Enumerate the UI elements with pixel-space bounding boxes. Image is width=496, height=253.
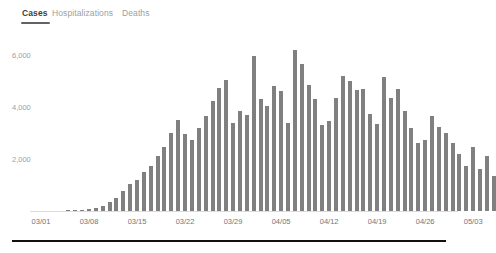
bar[interactable] bbox=[307, 85, 311, 211]
bar[interactable] bbox=[485, 156, 489, 211]
bar[interactable] bbox=[492, 176, 496, 211]
x-axis-line bbox=[30, 211, 458, 212]
bar[interactable] bbox=[211, 101, 215, 212]
bar[interactable] bbox=[320, 125, 324, 211]
x-axis-tick-label: 03/01 bbox=[32, 217, 51, 226]
metric-tab-bar: Cases Hospitalizations Deaths bbox=[0, 0, 461, 30]
bar[interactable] bbox=[348, 81, 352, 211]
x-axis-tick-label: 03/15 bbox=[128, 217, 147, 226]
bar[interactable] bbox=[108, 202, 112, 211]
x-axis-tick-label: 03/22 bbox=[176, 217, 195, 226]
bar[interactable] bbox=[259, 99, 263, 211]
bar[interactable] bbox=[149, 166, 153, 212]
bar[interactable] bbox=[272, 86, 276, 211]
bar[interactable] bbox=[471, 147, 475, 211]
bar-chart: 2,0004,0006,000 03/0103/0803/1503/2203/2… bbox=[0, 30, 461, 228]
bar[interactable] bbox=[464, 166, 468, 212]
bar[interactable] bbox=[204, 116, 208, 211]
bar[interactable] bbox=[327, 121, 331, 211]
bar[interactable] bbox=[252, 56, 256, 211]
bar[interactable] bbox=[162, 147, 166, 211]
tab-hospitalizations[interactable]: Hospitalizations bbox=[52, 8, 113, 18]
bar[interactable] bbox=[313, 99, 317, 211]
x-axis-tick-label: 03/29 bbox=[224, 217, 243, 226]
bar[interactable] bbox=[375, 124, 379, 211]
bar[interactable] bbox=[156, 156, 160, 211]
bar[interactable] bbox=[238, 111, 242, 211]
bar[interactable] bbox=[286, 123, 290, 211]
bar[interactable] bbox=[279, 91, 283, 211]
y-axis-tick-label: 2,000 bbox=[12, 155, 31, 164]
bar[interactable] bbox=[142, 172, 146, 211]
bar[interactable] bbox=[183, 134, 187, 211]
footer-divider bbox=[12, 240, 446, 242]
bar[interactable] bbox=[444, 133, 448, 211]
bar[interactable] bbox=[135, 180, 139, 211]
bar[interactable] bbox=[245, 115, 249, 211]
bar[interactable] bbox=[368, 114, 372, 212]
bar[interactable] bbox=[197, 128, 201, 211]
bar[interactable] bbox=[389, 98, 393, 211]
bar[interactable] bbox=[176, 120, 180, 211]
bar[interactable] bbox=[231, 123, 235, 211]
bar[interactable] bbox=[224, 80, 228, 211]
bar[interactable] bbox=[396, 89, 400, 211]
bar[interactable] bbox=[457, 154, 461, 211]
bar[interactable] bbox=[293, 50, 297, 211]
bar[interactable] bbox=[416, 143, 420, 211]
bar[interactable] bbox=[128, 184, 132, 211]
y-axis-tick-label: 4,000 bbox=[12, 103, 31, 112]
bar[interactable] bbox=[217, 88, 221, 212]
bar[interactable] bbox=[341, 76, 345, 211]
bar[interactable] bbox=[169, 133, 173, 211]
bar[interactable] bbox=[478, 169, 482, 211]
y-axis-tick-label: 6,000 bbox=[12, 51, 31, 60]
bar[interactable] bbox=[190, 140, 194, 212]
plot-area bbox=[30, 30, 458, 211]
bar[interactable] bbox=[114, 198, 118, 211]
x-axis-tick-label: 04/05 bbox=[272, 217, 291, 226]
tab-cases[interactable]: Cases bbox=[22, 8, 48, 18]
x-axis-tick-label: 04/26 bbox=[416, 217, 435, 226]
x-axis-tick-label: 04/12 bbox=[320, 217, 339, 226]
bar[interactable] bbox=[355, 90, 359, 211]
bar[interactable] bbox=[121, 191, 125, 211]
bar[interactable] bbox=[403, 111, 407, 211]
x-axis-tick-label: 03/08 bbox=[80, 217, 99, 226]
x-axis-tick-label: 05/03 bbox=[464, 217, 483, 226]
bar[interactable] bbox=[423, 140, 427, 212]
tab-deaths[interactable]: Deaths bbox=[122, 8, 150, 18]
bar[interactable] bbox=[451, 143, 455, 211]
bar[interactable] bbox=[430, 116, 434, 211]
x-axis-tick-label: 04/19 bbox=[368, 217, 387, 226]
bar[interactable] bbox=[437, 127, 441, 212]
bar[interactable] bbox=[382, 77, 386, 211]
footer-caption-clipped bbox=[12, 245, 442, 253]
bar[interactable] bbox=[265, 106, 269, 211]
bar[interactable] bbox=[361, 89, 365, 211]
bar[interactable] bbox=[334, 98, 338, 211]
active-tab-underline bbox=[21, 22, 50, 24]
bar[interactable] bbox=[409, 128, 413, 211]
bar[interactable] bbox=[300, 64, 304, 211]
